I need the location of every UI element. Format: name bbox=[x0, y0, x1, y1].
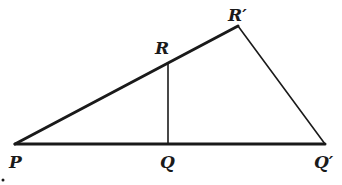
label-q: Q bbox=[160, 152, 175, 172]
segment-rprime-qprime bbox=[238, 26, 325, 144]
label-r: R bbox=[154, 38, 169, 58]
segment-p-rprime bbox=[15, 26, 238, 144]
stray-dot bbox=[2, 179, 5, 182]
similar-triangles-diagram: R′ R P Q Q′ bbox=[0, 0, 342, 185]
label-rprime: R′ bbox=[227, 5, 247, 25]
label-p: P bbox=[8, 152, 23, 172]
label-qprime: Q′ bbox=[314, 152, 334, 172]
